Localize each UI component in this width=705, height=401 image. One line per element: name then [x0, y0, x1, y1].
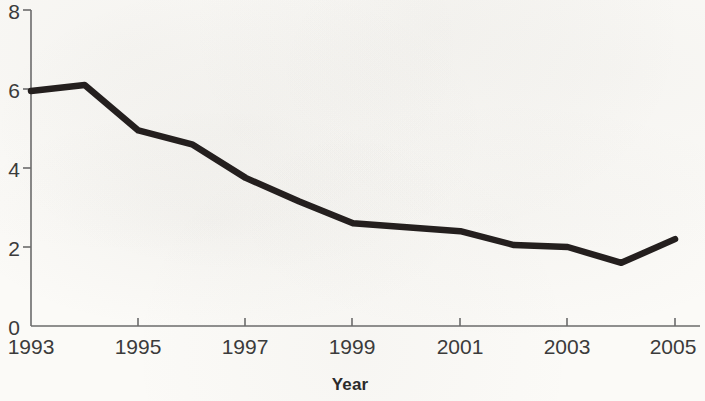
- y-tick-label-2: 2: [0, 238, 20, 259]
- x-axis-ticks: [138, 318, 675, 326]
- y-tick-label-4: 4: [0, 159, 20, 180]
- x-axis-title: Year: [310, 375, 390, 395]
- data-series-line: [31, 85, 675, 263]
- x-tick-label-1993: 1993: [0, 336, 71, 357]
- x-tick-label-2001: 2001: [420, 336, 500, 357]
- line-chart-figure: 8 6 4 2 0 1993 1995 1997 1999 2001 2003 …: [0, 0, 705, 401]
- y-tick-label-8: 8: [0, 1, 20, 22]
- x-tick-label-1995: 1995: [98, 336, 178, 357]
- x-tick-label-2003: 2003: [527, 336, 607, 357]
- y-tick-label-6: 6: [0, 80, 20, 101]
- x-tick-label-2005: 2005: [633, 336, 705, 357]
- x-tick-label-1997: 1997: [205, 336, 285, 357]
- x-tick-label-1999: 1999: [312, 336, 392, 357]
- y-axis-ticks: [23, 10, 31, 247]
